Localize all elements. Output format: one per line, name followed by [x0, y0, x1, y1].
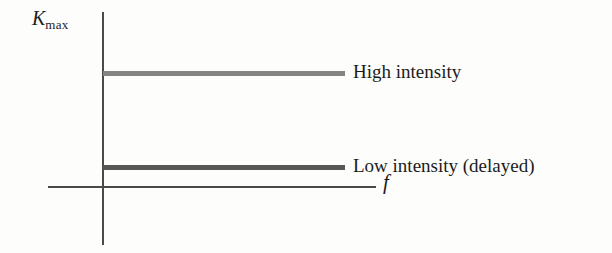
photoelectric-kmax-vs-frequency-figure: Kmax f High intensity Low intensity (del…: [0, 0, 612, 253]
y-axis-label-subscript: max: [45, 17, 68, 32]
y-axis-label-main: K: [32, 7, 45, 29]
low-intensity-label: Low intensity (delayed): [353, 156, 535, 175]
low-intensity-line: [103, 165, 345, 170]
x-axis-line: [48, 186, 376, 188]
high-intensity-label: High intensity: [353, 62, 461, 81]
y-axis-label: Kmax: [32, 8, 68, 31]
y-axis-line: [102, 12, 104, 245]
high-intensity-line: [103, 71, 345, 76]
